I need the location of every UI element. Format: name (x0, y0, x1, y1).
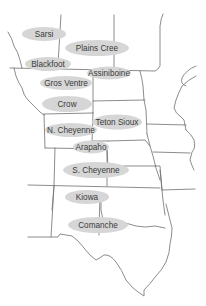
colorado-south-border (28, 185, 160, 188)
tribe-label: Plains Cree (76, 44, 119, 53)
tribe-regions: Sarsi Plains Cree Blackfoot Assiniboine … (22, 27, 142, 233)
tribe-comanche: Comanche (68, 217, 128, 233)
plains-tribes-map: Sarsi Plains Cree Blackfoot Assiniboine … (0, 0, 206, 306)
tribe-sarsi: Sarsi (22, 27, 66, 41)
iowa-south-border (153, 152, 190, 153)
sd-south-border (108, 140, 150, 146)
iowa-east-border (186, 130, 195, 170)
nd-sd-border (93, 100, 145, 101)
nm-west-border (51, 186, 54, 237)
tribe-kiowa: Kiowa (65, 190, 109, 204)
missouri-border (155, 166, 162, 190)
tribe-arapaho: Arapaho (73, 141, 109, 154)
tribe-label: Kiowa (76, 193, 99, 202)
dakotas-east-border (140, 71, 147, 134)
tribe-gros-ventre: Gros Ventre (40, 76, 92, 90)
tribe-label: S. Cheyenne (72, 166, 120, 175)
nebraska-east-border (147, 134, 160, 180)
tribe-label: Crow (57, 100, 76, 109)
tribe-label: Gros Ventre (44, 79, 88, 88)
tribe-assiniboine: Assiniboine (87, 67, 131, 80)
tribe-label: Comanche (78, 221, 118, 230)
tribe-label: Arapaho (76, 143, 107, 152)
tribe-label: Teton Sioux (96, 118, 139, 127)
wyoming-west-border (44, 114, 45, 148)
tribe-label: Assiniboine (88, 69, 130, 78)
minnesota-east-border (174, 76, 196, 130)
tribe-s-cheyenne: S. Cheyenne (63, 162, 129, 178)
lake-michigan-shore (182, 66, 197, 86)
tribe-teton-sioux: Teton Sioux (92, 115, 142, 130)
kansas-mo-line (162, 189, 195, 190)
bc-alberta-border (8, 32, 22, 68)
province-line-west (58, 15, 61, 64)
state-borders (8, 14, 196, 296)
iowa-north-border (147, 124, 186, 125)
tribe-blackfoot: Blackfoot (25, 57, 71, 71)
tribe-label: Sarsi (35, 30, 54, 39)
tribe-crow: Crow (42, 96, 92, 112)
montana-south-border (44, 113, 93, 114)
montana-west-border (14, 68, 44, 115)
tribe-plains-cree: Plains Cree (65, 40, 129, 56)
tribe-label: N. Cheyenne (47, 126, 95, 135)
tribe-label: Blackfoot (31, 60, 65, 69)
tribe-n-cheyenne: N. Cheyenne (45, 123, 97, 137)
